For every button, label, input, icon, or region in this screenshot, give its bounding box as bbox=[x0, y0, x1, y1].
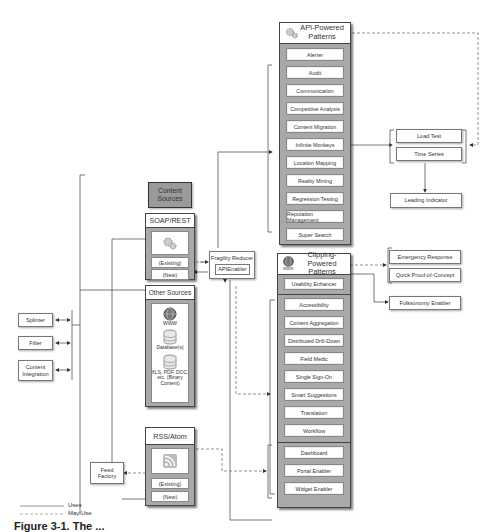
soap-rest-panel: SOAP/REST (Existing) (New) bbox=[145, 213, 195, 280]
rss-atom-title: RSS/Atom bbox=[146, 428, 194, 445]
pattern-audit[interactable]: Audit bbox=[286, 66, 344, 79]
pattern-regression-testing[interactable]: Regression Testing bbox=[286, 192, 344, 205]
time-series-box[interactable]: Time Series bbox=[396, 147, 462, 161]
divider bbox=[278, 442, 350, 443]
pattern-location-mapping[interactable]: Location Mapping bbox=[286, 156, 344, 169]
soap-rest-title: SOAP/REST bbox=[146, 214, 194, 228]
api-enabler-box[interactable]: APIEnabler bbox=[215, 264, 250, 275]
pattern-reality-mining[interactable]: Reality Mining bbox=[286, 174, 344, 187]
other-sources-panel: Other Sources WWW Database(s) XLS, PDF, … bbox=[145, 285, 195, 407]
gears-icon bbox=[285, 27, 299, 39]
pattern-reputation-management[interactable]: Reputation Management bbox=[286, 210, 344, 223]
content-integration-box[interactable]: Content Integration bbox=[18, 360, 53, 381]
rss-atom-panel: RSS/Atom (Existing) (New) bbox=[145, 427, 195, 506]
database-icon bbox=[162, 354, 178, 370]
legend-may-use-label: May Use bbox=[68, 510, 92, 516]
fragility-reducer-box: Fragility Reducer APIEnabler bbox=[209, 251, 255, 279]
splinter-box[interactable]: Splinter bbox=[18, 313, 53, 327]
pattern-smart-suggestions[interactable]: Smart Suggestions bbox=[284, 388, 344, 401]
clipping-powered-patterns-panel: WWW Clipping-Powered Patterns Usability … bbox=[277, 253, 351, 508]
pattern-distributed-drill-down[interactable]: Distributed Drill-Down bbox=[284, 334, 344, 347]
pattern-accessibility[interactable]: Accessibility bbox=[284, 298, 344, 311]
quick-proof-of-concept-box[interactable]: Quick Proof-of-Concept bbox=[389, 268, 461, 282]
soap-new-button[interactable]: (New) bbox=[151, 269, 189, 280]
emergency-response-box[interactable]: Emergency Response bbox=[389, 250, 461, 264]
database-icon bbox=[162, 329, 178, 345]
pattern-dashboard[interactable]: Dashboard bbox=[284, 446, 344, 459]
api-powered-patterns-panel: API-Powered Patterns Alerter Audit Commu… bbox=[279, 22, 351, 245]
content-sources-header: Content Sources bbox=[148, 182, 192, 208]
rss-feed-icon bbox=[163, 454, 177, 468]
divider bbox=[278, 294, 350, 295]
pattern-workflow[interactable]: Workflow bbox=[284, 424, 344, 437]
folksonomy-enabler-box[interactable]: Folksonomy Enabler bbox=[389, 296, 461, 310]
pattern-usability-enhancer[interactable]: Usability Enhancer bbox=[284, 278, 344, 290]
filter-box[interactable]: Filter bbox=[18, 336, 53, 350]
figure-caption: Figure 3-1. The ... bbox=[14, 520, 104, 532]
pattern-alerter[interactable]: Alerter bbox=[286, 48, 344, 61]
gears-icon bbox=[162, 236, 178, 250]
globe-icon bbox=[283, 256, 294, 267]
other-sources-title: Other Sources bbox=[146, 286, 194, 300]
pattern-content-aggregation[interactable]: Content Aggregation bbox=[284, 316, 344, 329]
api-powered-header: API-Powered Patterns bbox=[280, 23, 350, 44]
globe-icon bbox=[163, 307, 177, 321]
legend-uses-label: Uses bbox=[68, 502, 82, 508]
rss-existing-button[interactable]: (Existing) bbox=[151, 478, 189, 489]
rss-new-button[interactable]: (New) bbox=[151, 491, 189, 502]
pattern-competitive-analysis[interactable]: Competitive Analysis bbox=[286, 102, 344, 115]
soap-existing-button[interactable]: (Existing) bbox=[151, 257, 189, 268]
pattern-widget-enabler[interactable]: Widget Enabler bbox=[284, 482, 344, 495]
pattern-communication[interactable]: Communication bbox=[286, 84, 344, 97]
pattern-portal-enabler[interactable]: Portal Enabler bbox=[284, 464, 344, 477]
pattern-single-sign-on[interactable]: Single Sign-On bbox=[284, 370, 344, 383]
binary-content-label: XLS, PDF, DOC, etc. (Binary Content) bbox=[151, 370, 189, 387]
pattern-super-search[interactable]: Super Search bbox=[286, 228, 344, 241]
clipping-powered-header: WWW Clipping-Powered Patterns bbox=[278, 254, 350, 275]
feed-factory-box[interactable]: Feed Factory bbox=[90, 462, 124, 484]
pattern-translation[interactable]: Translation bbox=[284, 406, 344, 419]
pattern-infinite-monkeys[interactable]: Infinite Monkeys bbox=[286, 138, 344, 151]
pattern-content-migration[interactable]: Content Migration bbox=[286, 120, 344, 133]
www-label: WWW bbox=[163, 321, 177, 327]
load-test-box[interactable]: Load Test bbox=[396, 129, 462, 143]
pattern-field-medic[interactable]: Field Medic bbox=[284, 352, 344, 365]
leading-indicator-box[interactable]: Leading Indicator bbox=[390, 193, 462, 208]
database-label: Database(s) bbox=[156, 345, 183, 351]
